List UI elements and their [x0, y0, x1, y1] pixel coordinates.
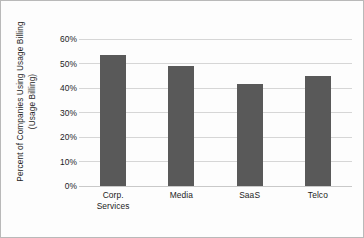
- y-tick-label: 30%: [60, 108, 77, 118]
- x-axis-tick-labels: Corp.ServicesMediaSaaSTelco: [79, 190, 352, 230]
- y-axis-title-line-1: Percent of Companies Using Usage Billing: [15, 21, 27, 181]
- y-tick-label: 0%: [65, 181, 77, 191]
- x-tick-label: Corp.Services: [97, 190, 130, 212]
- y-tick-label: 20%: [60, 132, 77, 142]
- y-axis-title: Percent of Companies Using Usage Billing…: [1, 1, 51, 201]
- y-axis-tick-labels: 0%10%20%30%40%50%60%: [47, 39, 77, 186]
- plot-area: [79, 39, 352, 186]
- x-tick-label: SaaS: [239, 190, 260, 201]
- bar-chart-figure: Percent of Companies Using Usage Billing…: [0, 0, 364, 238]
- y-axis-title-line-2: (Usage Billing): [26, 21, 38, 181]
- bar[interactable]: [100, 55, 126, 186]
- y-tick-label: 10%: [60, 157, 77, 167]
- bar[interactable]: [305, 76, 331, 186]
- bar-series: [79, 39, 352, 186]
- y-tick-label: 60%: [60, 34, 77, 44]
- x-tick-label: Media: [170, 190, 193, 201]
- y-tick-label: 50%: [60, 59, 77, 69]
- bar[interactable]: [168, 66, 194, 186]
- x-tick-label-line: Corp.: [97, 190, 130, 201]
- x-tick-label-line: Telco: [308, 190, 328, 201]
- x-tick-label-line: SaaS: [239, 190, 260, 201]
- x-tick-label: Telco: [308, 190, 328, 201]
- x-tick-label-line: Media: [170, 190, 193, 201]
- x-tick-label-line: Services: [97, 201, 130, 212]
- bar[interactable]: [237, 84, 263, 186]
- y-tick-label: 40%: [60, 83, 77, 93]
